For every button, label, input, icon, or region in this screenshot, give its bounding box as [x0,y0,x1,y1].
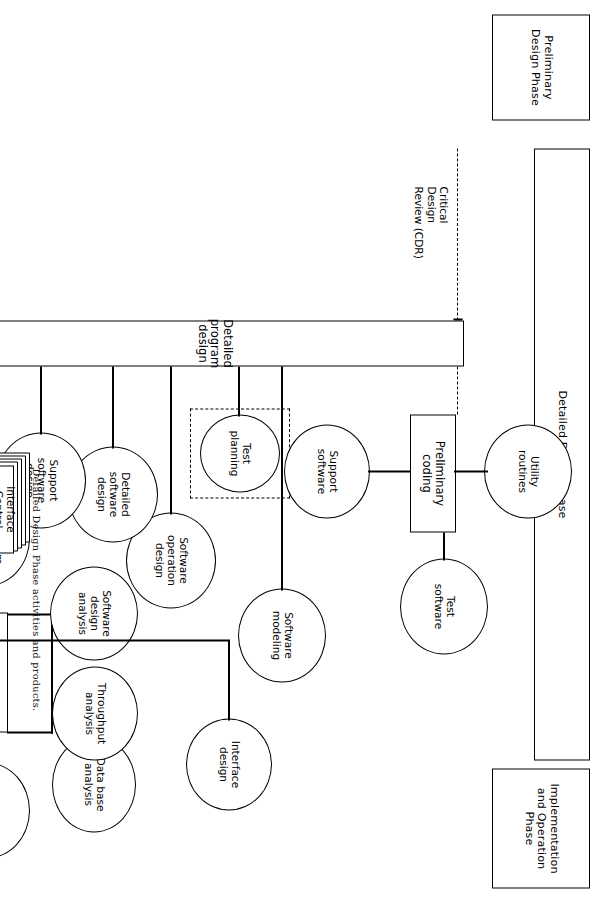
cdr-dashed-connector-left [457,148,458,320]
doc-sheet-front: Interface Control Document (s) [0,465,14,553]
connector-utility-routines-riser [454,470,488,472]
activity-label: Interface design [217,740,241,787]
connector-analysis-spine [7,613,53,615]
activity-software-modeling: Software modeling [238,588,326,682]
connector-support-software-design [40,366,42,434]
activity-label: Utility routines [516,449,540,492]
activity-label: Detailed software design [95,471,131,517]
connector-test-software [443,532,445,560]
connector-test-planning [238,366,240,416]
activity-throughput-analysis: Throughput analysis [52,666,138,760]
activity-test-planning: Test planning [200,414,280,492]
activity-label: Software operation design [153,535,189,586]
phase-banner-label: Implementation and Operation Phase [522,769,560,887]
activity-equation-derivation: Equation derivation [0,762,30,858]
process-bar-label: Preliminary coding [420,440,446,505]
activity-label: Support software [315,448,339,494]
connector-support-software-riser [368,470,410,472]
process-bar-label: Detailed program design [196,318,235,367]
activity-label: Software modeling [270,610,294,659]
cdr-dashed-connector-right [457,366,458,414]
milestone-critical-design-review-label: Critical Design Review (CDR) [413,186,450,318]
activity-label: Software design analysis [76,590,112,637]
phase-banner-label: Preliminary Design Phase [528,29,553,106]
activity-label: Data base analysis [82,757,106,811]
activity-label: Test software [432,583,456,629]
process-bar-detailed-program-design: Detailed program design [0,320,464,366]
activity-test-software: Test software [400,558,488,654]
activity-label: Throughput analysis [83,682,107,744]
document-label: Interface Control Document (s) [0,482,16,536]
activity-support-software: Support software [284,424,370,518]
connector-detailed-software-design [112,366,114,448]
process-bar-preliminary-coding: Preliminary coding [410,414,456,532]
phase-banner-preliminary-design: Preliminary Design Phase [492,14,590,120]
process-bar-analysis: Analysis [0,612,8,732]
figure-caption: Detailed Design Phase activities and pro… [31,468,42,711]
activity-label: Test planning [228,430,252,476]
connector-interface-design [228,640,230,720]
phase-banner-implementation-operation: Implementation and Operation Phase [492,768,590,888]
figure-canvas: Implementation and Operation Phase Detai… [0,0,608,907]
activity-utility-routines: Utility routines [484,424,572,518]
document-interface-control-document: Interface Control Document (s) [0,452,30,556]
activity-software-design-analysis: Software design analysis [50,566,138,660]
connector-software-operation-design [170,366,172,514]
connector-analysis-spine-2 [7,731,53,733]
activity-interface-design: Interface design [186,718,272,810]
